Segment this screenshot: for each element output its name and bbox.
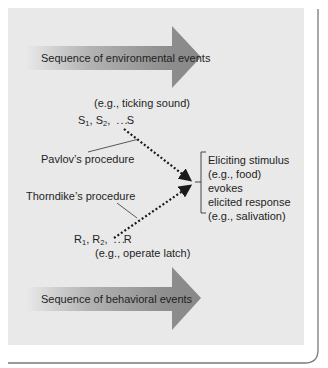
pavlov-procedure-label: Pavlov’s procedure	[41, 153, 134, 166]
response-last: R	[124, 233, 132, 245]
stimulus-last: S	[127, 114, 134, 126]
outcome-line: elicited response	[208, 195, 291, 209]
thorndike-procedure-label: Thorndike’s procedure	[26, 190, 135, 203]
stimulus-ellipsis: . . .	[116, 114, 126, 126]
outcome-line: evokes	[208, 181, 291, 195]
thorndike-leader-line	[117, 203, 137, 218]
stimulus-s1: S1,	[78, 114, 93, 126]
behavioral-events-label: Sequence of behavioral events	[41, 293, 192, 306]
stimulus-sequence: S1, S2, . . .S	[78, 114, 134, 130]
outcome-text: Eliciting stimulus (e.g., food) evokes e…	[208, 153, 291, 223]
response-ellipsis: . . .	[114, 233, 124, 245]
stimulus-example: (e.g., ticking sound)	[94, 97, 190, 110]
outcome-line: Eliciting stimulus	[208, 153, 291, 167]
stimulus-s2: S2,	[96, 114, 111, 126]
pavlov-leader-line	[88, 139, 139, 152]
environmental-events-label: Sequence of environmental events	[41, 52, 210, 65]
outcome-line: (e.g., food)	[208, 167, 291, 181]
outcome-bracket	[195, 152, 206, 213]
response-example: (e.g., operate latch)	[95, 247, 190, 260]
outcome-line: (e.g., salivation)	[208, 209, 291, 223]
response-r2: R2,	[92, 233, 107, 245]
response-r1: R1,	[74, 233, 89, 245]
